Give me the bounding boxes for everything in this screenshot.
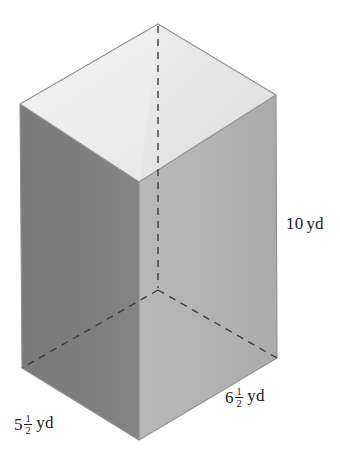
depth-mixed-number: 5 1 2 — [14, 413, 33, 436]
depth-label: 5 1 2 yd — [14, 413, 54, 436]
width-label: 6 1 2 yd — [225, 386, 265, 409]
depth-denominator: 2 — [24, 425, 31, 436]
width-fraction: 1 2 — [235, 386, 243, 409]
width-mixed-number: 6 1 2 — [225, 386, 244, 409]
depth-unit: yd — [36, 413, 53, 432]
width-denominator: 2 — [235, 398, 242, 409]
height-label: 10yd — [286, 215, 324, 232]
depth-numerator: 1 — [24, 413, 31, 424]
width-numerator: 1 — [235, 386, 242, 397]
width-whole: 6 — [225, 389, 234, 406]
height-value: 10 — [286, 214, 303, 233]
width-unit: yd — [247, 386, 264, 405]
depth-fraction: 1 2 — [24, 413, 32, 436]
depth-whole: 5 — [14, 416, 23, 433]
geometry-figure: 10yd 5 1 2 yd 6 1 2 yd — [0, 0, 340, 462]
height-unit: yd — [306, 214, 323, 233]
